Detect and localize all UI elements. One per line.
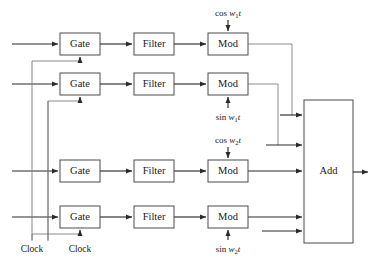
block-mod3-label: Mod xyxy=(218,165,239,176)
carrier1-func: cos xyxy=(215,8,227,18)
block-gate4-label: Gate xyxy=(70,211,90,222)
carrier4-func: sin xyxy=(216,244,227,254)
carrier4-label: sin w2t xyxy=(216,244,241,255)
block-mod1-label: Mod xyxy=(218,38,239,49)
block-gate1-label: Gate xyxy=(70,38,90,49)
carrier4-t: t xyxy=(238,244,241,254)
block-filter4-label: Filter xyxy=(143,211,166,222)
clock-label-left: Clock xyxy=(21,244,44,254)
mod2-output-wire xyxy=(248,84,278,145)
mod-to-add-wires xyxy=(248,44,302,231)
block-filter3-label: Filter xyxy=(143,165,166,176)
carrier2-t: t xyxy=(238,112,241,122)
carrier2-label: sin w1t xyxy=(216,112,241,123)
clock-label-right: Clock xyxy=(69,244,92,254)
block-mod4-label: Mod xyxy=(218,211,239,222)
carrier3-t: t xyxy=(239,135,242,145)
block-filter2-label: Filter xyxy=(143,78,166,89)
block-add-label: Add xyxy=(319,165,338,176)
block-gate2-label: Gate xyxy=(70,78,90,89)
carrier3-func: cos xyxy=(215,135,227,145)
carrier1-t: t xyxy=(239,8,242,18)
blocks-layer: Gate Filter Mod Gate Filter Mod Gate Fil… xyxy=(60,33,353,243)
carrier2-func: sin xyxy=(216,112,227,122)
carrier3-label: cos w2t xyxy=(215,135,242,146)
mod1-output-wire xyxy=(248,44,292,115)
carrier1-label: cos w1t xyxy=(215,8,242,19)
block-mod2-label: Mod xyxy=(218,78,239,89)
block-diagram-canvas: Gate Filter Mod Gate Filter Mod Gate Fil… xyxy=(0,0,371,269)
block-gate3-label: Gate xyxy=(70,165,90,176)
block-filter1-label: Filter xyxy=(143,38,166,49)
